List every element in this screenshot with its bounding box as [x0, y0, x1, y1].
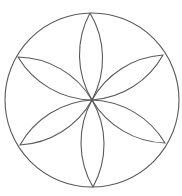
petal-lower-right — [92, 100, 165, 143]
petal-upper-left — [18, 57, 92, 100]
petal-bottom — [81, 100, 104, 187]
rosette-diagram — [0, 0, 182, 196]
petals-group — [18, 13, 165, 187]
